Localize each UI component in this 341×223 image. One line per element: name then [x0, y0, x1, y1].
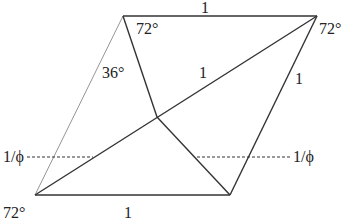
rhombus-diagram: 1 72° 72° 36° 1 1 1/ϕ 1/ϕ 72° 1 [0, 0, 341, 223]
label-height-right: 1/ϕ [293, 148, 314, 166]
label-right-edge: 1 [295, 70, 303, 87]
label-angle-top-right: 72° [319, 20, 341, 37]
segment-interior-to-bottom-right [157, 117, 230, 195]
label-height-left: 1/ϕ [3, 148, 24, 166]
diagonal-long [35, 16, 317, 195]
label-angle-top-left: 72° [136, 20, 158, 37]
edge-left [35, 16, 123, 195]
label-top-edge: 1 [201, 0, 209, 16]
label-angle-left-apex: 36° [102, 64, 124, 81]
label-angle-bottom-left: 72° [3, 204, 25, 221]
label-diagonal: 1 [199, 64, 207, 81]
label-bottom-edge: 1 [124, 204, 132, 221]
